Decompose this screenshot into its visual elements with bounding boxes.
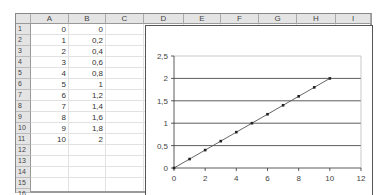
x-tick-labels: 0 2 4 6 8 10 12 [172, 174, 366, 183]
data-point-marker[interactable] [313, 86, 316, 89]
cell-b2[interactable]: 0,2 [69, 35, 105, 46]
row-header[interactable]: 13 [16, 156, 31, 167]
cell-b4[interactable]: 0,6 [69, 57, 105, 68]
column-header-f[interactable]: F [221, 14, 259, 24]
row-header[interactable]: 2 [16, 35, 31, 46]
row-header[interactable]: 8 [16, 101, 31, 112]
data-point-marker[interactable] [188, 158, 191, 161]
y-tick-labels: 2,5 2 1,5 1 0,5 0 [157, 52, 169, 173]
svg-text:12: 12 [357, 174, 366, 183]
row-header[interactable]: 4 [16, 57, 31, 68]
row-header[interactable]: 6 [16, 79, 31, 90]
column-header-i[interactable]: I [336, 14, 371, 24]
data-point-marker[interactable] [204, 149, 207, 152]
column-header-b[interactable]: B [69, 14, 106, 24]
svg-text:0: 0 [172, 174, 177, 183]
cell-b11[interactable]: 2 [69, 134, 105, 145]
row-header[interactable]: 1 [16, 24, 31, 35]
svg-text:8: 8 [296, 174, 301, 183]
row-header[interactable]: 16 [16, 189, 31, 193]
row-header[interactable]: 7 [16, 90, 31, 101]
cell-a11[interactable]: 10 [31, 134, 68, 145]
column-header-d[interactable]: D [144, 14, 184, 24]
column-header-h[interactable]: H [297, 14, 336, 24]
row-header[interactable]: 9 [16, 112, 31, 123]
cell-a5[interactable]: 4 [31, 68, 68, 79]
data-point-marker[interactable] [219, 140, 222, 143]
cell-a2[interactable]: 1 [31, 35, 68, 46]
cell-b7[interactable]: 1,2 [69, 90, 105, 101]
column-header-c[interactable]: C [106, 14, 144, 24]
data-point-marker[interactable] [297, 95, 300, 98]
svg-text:2,5: 2,5 [157, 52, 169, 61]
cell-a4[interactable]: 3 [31, 57, 68, 68]
cell-a7[interactable]: 6 [31, 90, 68, 101]
cell-b8[interactable]: 1,4 [69, 101, 105, 112]
row-header[interactable]: 11 [16, 134, 31, 145]
svg-text:0,5: 0,5 [157, 142, 169, 151]
cell-a1[interactable]: 0 [31, 24, 68, 35]
column-header-g[interactable]: G [259, 14, 297, 24]
cell-b10[interactable]: 1,8 [69, 123, 105, 134]
row-header[interactable]: 15 [16, 178, 31, 189]
x-tick-marks [174, 168, 361, 171]
row-header[interactable]: 14 [16, 167, 31, 178]
svg-text:0: 0 [164, 164, 169, 173]
svg-text:4: 4 [234, 174, 239, 183]
embedded-line-chart[interactable]: 2,5 2 1,5 1 0,5 0 0 2 4 6 8 10 12 [145, 25, 373, 195]
y-tick-marks [171, 56, 174, 168]
cell-b6[interactable]: 1 [69, 79, 105, 90]
svg-text:10: 10 [325, 174, 334, 183]
cell-a10[interactable]: 9 [31, 123, 68, 134]
data-point-marker[interactable] [282, 104, 285, 107]
data-point-marker[interactable] [251, 122, 254, 125]
cell-a8[interactable]: 7 [31, 101, 68, 112]
cell-a3[interactable]: 2 [31, 46, 68, 57]
cell-b1[interactable]: 0 [69, 24, 105, 35]
y-gridlines [174, 56, 361, 146]
row-header[interactable]: 5 [16, 68, 31, 79]
data-point-marker[interactable] [266, 113, 269, 116]
svg-text:2: 2 [164, 74, 169, 83]
column-header-e[interactable]: E [184, 14, 221, 24]
cell-b3[interactable]: 0,4 [69, 46, 105, 57]
column-header-a[interactable]: A [31, 14, 69, 24]
svg-text:1,5: 1,5 [157, 97, 169, 106]
cell-a9[interactable]: 8 [31, 112, 68, 123]
svg-text:1: 1 [164, 119, 169, 128]
data-point-marker[interactable] [235, 131, 238, 134]
row-header[interactable]: 3 [16, 46, 31, 57]
spreadsheet-grid[interactable]: A B C D E F G H I 1 2 3 4 5 6 7 8 9 10 1… [15, 13, 372, 193]
svg-text:2: 2 [203, 174, 208, 183]
row-header[interactable]: 12 [16, 145, 31, 156]
select-all-corner[interactable] [16, 14, 31, 24]
cell-b5[interactable]: 0,8 [69, 68, 105, 79]
chart-plot: 2,5 2 1,5 1 0,5 0 0 2 4 6 8 10 12 [146, 26, 374, 195]
data-point-marker[interactable] [173, 167, 176, 170]
cell-b9[interactable]: 1,6 [69, 112, 105, 123]
cell-a6[interactable]: 5 [31, 79, 68, 90]
data-point-marker[interactable] [329, 77, 332, 80]
svg-text:6: 6 [265, 174, 270, 183]
row-header[interactable]: 10 [16, 123, 31, 134]
